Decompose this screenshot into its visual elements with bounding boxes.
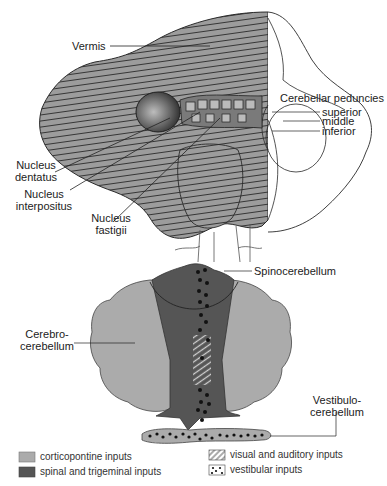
legend-label: spinal and trigeminal inputs <box>40 466 161 477</box>
label-cerebrocerebellum: Cerebro- cerebellum <box>20 328 74 352</box>
label-vestibulocerebellum-line2: cerebellum <box>308 406 366 418</box>
label-vermis: Vermis <box>72 40 106 52</box>
label-cerebrocerebellum-line1: Cerebro- <box>20 328 74 340</box>
label-cerebrocerebellum-line2: cerebellum <box>20 340 74 352</box>
legend-swatch-spinal-trigeminal <box>19 467 35 477</box>
label-peduncle-inferior: inferior <box>322 125 356 137</box>
legend-label: visual and auditory inputs <box>230 449 343 460</box>
legend-swatch-corticopontine <box>19 452 35 462</box>
figure: Vermis Cerebellar peduncies superior mid… <box>0 0 387 486</box>
label-nucleus-interpositus-line2: interpositus <box>14 200 74 212</box>
label-nucleus-dentatus-line1: Nucleus <box>8 159 64 171</box>
label-vestibulocerebellum: Vestibulo- cerebellum <box>308 394 366 418</box>
label-cerebellar-peduncles: Cerebellar peduncies <box>280 92 384 104</box>
label-vestibulocerebellum-line1: Vestibulo- <box>308 394 366 406</box>
label-nucleus-interpositus-line1: Nucleus <box>14 188 74 200</box>
legend-item-corticopontine: corticopontine inputs <box>40 451 132 462</box>
label-nucleus-fastigii-line1: Nucleus <box>86 212 136 224</box>
legend-item-vestibular: vestibular inputs <box>230 464 302 475</box>
label-nucleus-dentatus: Nucleus dentatus <box>8 159 64 183</box>
label-spinocerebellum: Spinocerebellum <box>254 265 336 277</box>
label-nucleus-fastigii-line2: fastigii <box>86 224 136 236</box>
label-nucleus-interpositus: Nucleus interpositus <box>14 188 74 212</box>
legend-swatch-visual-auditory <box>209 450 225 460</box>
label-nucleus-fastigii: Nucleus fastigii <box>86 212 136 236</box>
label-nucleus-dentatus-line2: dentatus <box>8 171 64 183</box>
nucleus-dentatus-shape <box>136 92 180 132</box>
cerebellum-right-half <box>268 12 372 232</box>
legend-label: vestibular inputs <box>230 464 302 475</box>
legend-item-spinal-trigeminal: spinal and trigeminal inputs <box>40 466 161 477</box>
legend-item-visual-auditory: visual and auditory inputs <box>230 449 343 460</box>
legend-label: corticopontine inputs <box>40 451 132 462</box>
